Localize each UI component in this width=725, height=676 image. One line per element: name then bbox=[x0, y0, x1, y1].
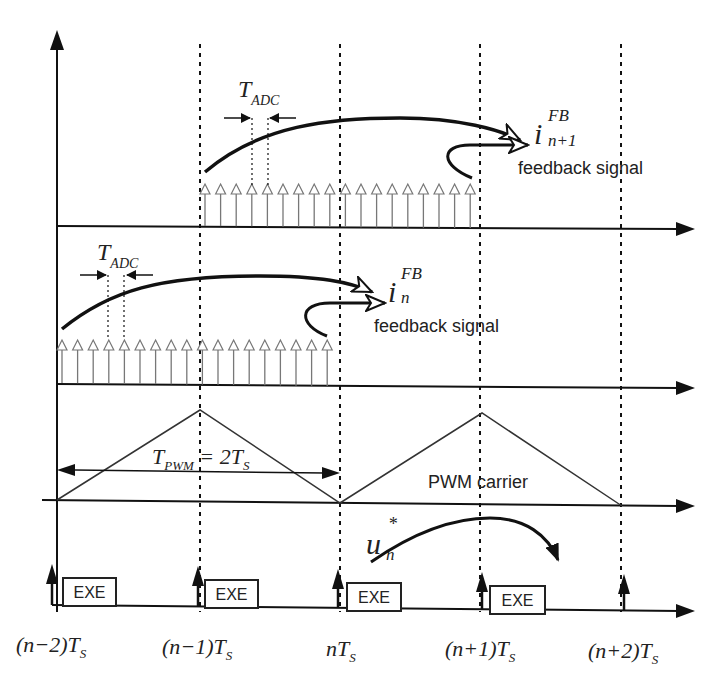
row1-feedback-symbol: i bbox=[534, 117, 542, 150]
exe-block-1: EXE bbox=[63, 578, 116, 606]
svg-text:EXE: EXE bbox=[215, 586, 247, 603]
u-sub: n bbox=[386, 545, 395, 564]
svg-text:EXE: EXE bbox=[358, 589, 390, 606]
tpwm-label: TPWM = 2TS bbox=[152, 444, 250, 473]
tick-n: nTS bbox=[326, 636, 356, 665]
row2-feedback-symbol: i bbox=[388, 275, 396, 308]
row2-tadc-label: TADC bbox=[97, 239, 139, 271]
row1-tadc-label: TADC bbox=[238, 76, 280, 108]
row2-feedback-sub: n bbox=[401, 288, 410, 307]
tick-n-minus-2: (n−2)TS bbox=[16, 632, 87, 661]
tick-n-minus-1: (n−1)TS bbox=[162, 634, 233, 663]
u-command-arrow bbox=[371, 518, 558, 562]
tick-n-plus-2: (n+2)TS bbox=[588, 638, 659, 667]
tick-n-plus-1: (n+1)TS bbox=[445, 636, 516, 665]
exe-block-3: EXE bbox=[347, 583, 401, 611]
row2-sample-arrows bbox=[57, 340, 332, 386]
row1-feedback-hook bbox=[448, 145, 528, 178]
row2-feedback-sup: FB bbox=[400, 264, 422, 283]
u-symbol: u bbox=[366, 527, 381, 560]
row1-feedback-sub: n+1 bbox=[548, 131, 576, 150]
diagram-svg: TADC i FB n+1 feedback signal TADC i FB … bbox=[0, 0, 725, 676]
exe-block-2: EXE bbox=[205, 580, 258, 608]
row1-feedback-text: feedback signal bbox=[518, 158, 643, 178]
svg-text:EXE: EXE bbox=[73, 584, 105, 601]
row2-feedback-text: feedback signal bbox=[374, 316, 499, 336]
row1-feedback-sup: FB bbox=[547, 106, 569, 125]
u-sup: * bbox=[388, 514, 397, 534]
svg-text:EXE: EXE bbox=[501, 592, 533, 609]
timing-diagram: TADC i FB n+1 feedback signal TADC i FB … bbox=[0, 0, 725, 676]
time-tick-labels: (n−2)TS (n−1)TS nTS (n+1)TS (n+2)TS bbox=[16, 632, 659, 667]
exe-block-4: EXE bbox=[490, 586, 545, 614]
row1-sample-arrows bbox=[200, 184, 475, 228]
row2-axis bbox=[57, 381, 695, 395]
y-axis bbox=[50, 30, 64, 612]
pwm-carrier-label: PWM carrier bbox=[428, 472, 528, 492]
row3-axis bbox=[42, 499, 695, 513]
